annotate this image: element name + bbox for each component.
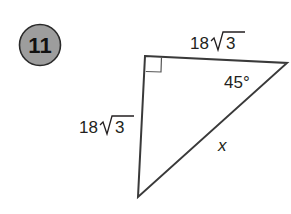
left-side-radicand: 3 (115, 118, 124, 137)
top-side-label: 18 3 (190, 32, 245, 53)
problem-number-badge: 11 (20, 25, 61, 66)
top-side-coef: 18 (190, 34, 209, 53)
hypotenuse-label: x (217, 136, 227, 155)
right-triangle (138, 56, 287, 197)
angle-label: 45° (224, 73, 250, 92)
left-side-coef: 18 (79, 118, 98, 137)
left-side-label: 18 3 (79, 116, 134, 137)
right-angle-marker (146, 57, 162, 72)
problem-number: 11 (28, 33, 51, 58)
figure: 11 18 3 45° 18 3 x (0, 0, 291, 214)
top-side-radicand: 3 (226, 34, 235, 53)
